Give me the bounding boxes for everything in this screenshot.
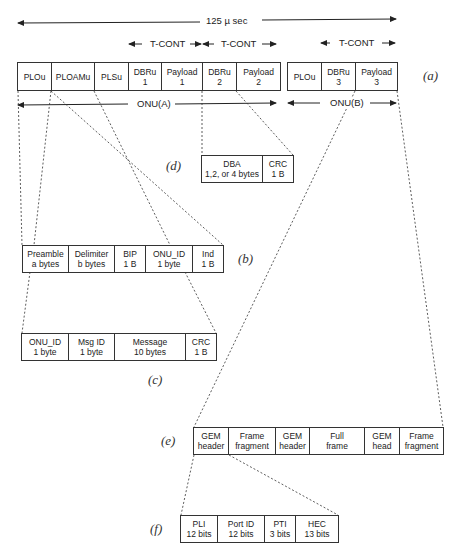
field-pti: PTI3 bits <box>265 516 296 542</box>
field-msg-id: Msg ID1 byte <box>69 334 115 360</box>
field-ind: Ind1 B <box>193 246 223 272</box>
field-delimiter: Delimiterb bytes <box>69 246 115 272</box>
gem-header-structure: PLI12 bits Port ID12 bits PTI3 bits HEC1… <box>180 515 339 543</box>
field-dbru-1: DBRu1 <box>129 63 162 90</box>
onu-b-label: ONU(B) <box>327 97 367 108</box>
plou-structure: Preamblea bytes Delimiterb bytes BIP1 B … <box>22 245 224 273</box>
field-onu-id-b: ONU_ID1 byte <box>146 246 193 272</box>
part-label-f: (f) <box>150 521 162 537</box>
frame-duration-label: 125 µ sec <box>203 15 250 26</box>
field-gem-header-2: GEMheader <box>276 428 310 454</box>
field-payload-2: Payload2 <box>237 63 280 90</box>
field-hec: HEC13 bits <box>296 516 338 542</box>
tcont-label-2: T-CONT <box>218 38 259 49</box>
gem-payload-structure: GEMheader Framefragment GEMheader Fullfr… <box>193 427 444 455</box>
field-payload-3: Payload3 <box>356 63 397 90</box>
dbru-structure: DBA1,2, or 4 bytes CRC1 B <box>201 155 294 183</box>
field-pli: PLI12 bits <box>181 516 218 542</box>
field-gem-head: GEMhead <box>365 428 400 454</box>
field-preamble: Preamblea bytes <box>23 246 69 272</box>
ploamu-structure: ONU_ID1 byte Msg ID1 byte Message10 byte… <box>21 333 217 361</box>
field-payload-1: Payload1 <box>162 63 203 90</box>
field-gem-header-1: GEMheader <box>194 428 229 454</box>
field-onu-id-c: ONU_ID1 byte <box>22 334 69 360</box>
field-bip: BIP1 B <box>115 246 146 272</box>
onu-a-label: ONU(A) <box>134 98 174 109</box>
field-frame-fragment-1: Framefragment <box>229 428 276 454</box>
field-dbru-3: DBRu3 <box>322 63 356 90</box>
tcont-label-3: T-CONT <box>336 37 377 48</box>
tcont-label-1: T-CONT <box>147 38 188 49</box>
field-dba: DBA1,2, or 4 bytes <box>202 156 263 182</box>
field-crc-d: CRC1 B <box>263 156 293 182</box>
field-dbru-2: DBRu2 <box>203 63 237 90</box>
field-ploamu: PLOAMu <box>52 63 95 90</box>
upstream-frame-onu-b: PLOu DBRu3 Payload3 <box>287 62 398 91</box>
field-port-id: Port ID12 bits <box>218 516 265 542</box>
field-plou: PLOu <box>18 63 52 90</box>
part-label-b: (b) <box>238 251 253 267</box>
field-message: Message10 bytes <box>115 334 186 360</box>
part-label-a: (a) <box>423 68 438 84</box>
field-plsu: PLSu <box>95 63 129 90</box>
part-label-e: (e) <box>161 433 175 449</box>
field-plou-b: PLOu <box>288 63 322 90</box>
part-label-d: (d) <box>166 158 181 174</box>
part-label-c: (c) <box>148 372 162 388</box>
field-frame-fragment-2: Framefragment <box>400 428 443 454</box>
upstream-frame-onu-a: PLOu PLOAMu PLSu DBRu1 Payload1 DBRu2 Pa… <box>17 62 281 91</box>
field-full-frame: Fullframe <box>310 428 365 454</box>
field-crc-c: CRC1 B <box>186 334 216 360</box>
